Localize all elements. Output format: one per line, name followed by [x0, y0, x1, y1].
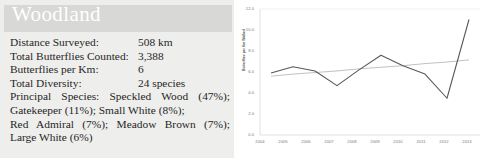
stat-row-distance-surveyed: Distance Surveyed: 508 km — [10, 36, 232, 50]
plot-area — [234, 0, 485, 158]
stat-value: 3,388 — [138, 50, 164, 64]
principal-species-block: Principal Species: Speckled Wood (47%); … — [10, 90, 230, 144]
stat-value: 508 km — [138, 36, 173, 50]
page-title: Woodland — [12, 4, 101, 25]
stat-label: Butterflies per Km: — [10, 63, 138, 77]
butterflies-per-km-chart: Butterflies per Km Walked 12.0 10.0 8.0 … — [234, 0, 485, 158]
species-line: Gatekeeper (11%); Small White (8%); — [10, 104, 230, 118]
stat-row-total-butterflies-counted: Total Butterflies Counted: 3,388 — [10, 50, 232, 64]
species-line: Principal Species: Speckled Wood (47%); — [10, 90, 230, 104]
stat-label: Distance Surveyed: — [10, 36, 138, 50]
species-line: Large White (6%) — [10, 131, 230, 145]
stat-row-total-diversity: Total Diversity: 24 species — [10, 77, 232, 91]
stat-row-butterflies-per-km: Butterflies per Km: 6 — [10, 63, 232, 77]
statistics-list: Distance Surveyed: 508 km Total Butterfl… — [10, 36, 232, 145]
stat-label: Total Butterflies Counted: — [10, 50, 138, 64]
species-line: Red Admiral (7%); Meadow Brown (7%); — [10, 118, 230, 132]
butterflies-per-km-series — [271, 20, 469, 99]
stat-value: 6 — [138, 63, 144, 77]
survey-summary-figure: Woodland Distance Surveyed: 508 km Total… — [0, 0, 485, 158]
stat-label: Total Diversity: — [10, 77, 138, 91]
stat-value: 24 species — [138, 77, 185, 91]
woodland-info-panel: Woodland Distance Surveyed: 508 km Total… — [0, 0, 234, 158]
